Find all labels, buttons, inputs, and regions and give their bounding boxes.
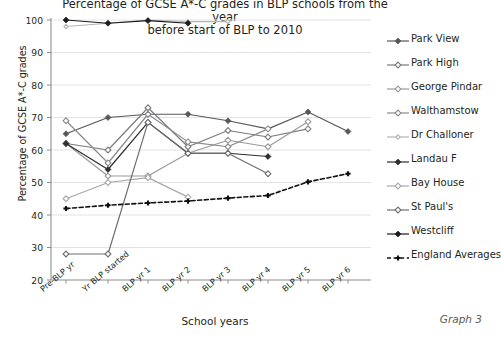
legend-item-landau-f[interactable]: Landau F xyxy=(386,146,490,170)
data-point-marker xyxy=(345,129,351,135)
data-point-marker xyxy=(225,137,231,143)
data-point-marker xyxy=(225,150,231,156)
legend-swatch-icon xyxy=(386,153,410,165)
y-axis-tick-label: 50 xyxy=(17,177,43,188)
data-point-marker xyxy=(147,202,150,205)
data-point-marker xyxy=(395,159,401,165)
data-point-marker xyxy=(63,17,69,23)
data-point-marker xyxy=(265,171,271,177)
series-walthamstow xyxy=(63,111,271,166)
data-point-marker xyxy=(265,126,271,132)
legend-item-dr-challoner[interactable]: Dr Challoner xyxy=(386,122,490,146)
legend-label: Westcliff xyxy=(410,225,454,236)
data-point-marker xyxy=(187,200,190,203)
data-point-marker xyxy=(225,128,231,134)
y-axis-tick-label: 90 xyxy=(17,47,43,58)
data-point-marker xyxy=(347,172,350,175)
legend-label: Walthamstow xyxy=(410,105,479,116)
legend-swatch-icon xyxy=(386,177,410,189)
data-point-marker xyxy=(105,180,111,186)
data-point-marker xyxy=(107,204,110,207)
legend-label: England Averages xyxy=(410,249,501,260)
data-point-marker xyxy=(227,197,230,200)
legend-swatch-icon xyxy=(386,201,410,213)
legend-item-bay-house[interactable]: Bay House xyxy=(386,171,490,195)
legend-swatch-icon xyxy=(386,56,410,68)
legend-item-westcliff[interactable]: Westcliff xyxy=(386,219,490,243)
data-point-marker xyxy=(395,38,401,44)
legend-item-park-high[interactable]: Park High xyxy=(386,50,490,74)
y-axis-tick-label: 100 xyxy=(17,15,43,26)
data-point-marker xyxy=(396,135,400,139)
data-point-marker xyxy=(307,181,310,184)
chart-legend: Park ViewPark HighGeorge PindarWalthamst… xyxy=(386,26,490,267)
legend-item-park-view[interactable]: Park View xyxy=(386,26,490,50)
y-axis-tick-label: 70 xyxy=(17,112,43,123)
y-axis-tick-label: 80 xyxy=(17,80,43,91)
data-point-marker xyxy=(395,207,401,213)
y-axis-tick-label: 60 xyxy=(17,145,43,156)
data-point-marker xyxy=(395,86,401,92)
series-line xyxy=(66,122,268,169)
legend-label: Park View xyxy=(410,33,460,44)
data-point-marker xyxy=(395,62,401,68)
legend-item-walthamstow[interactable]: Walthamstow xyxy=(386,98,490,122)
y-axis-tick-label: 40 xyxy=(17,210,43,221)
legend-label: St Paul's xyxy=(410,201,453,212)
data-point-marker xyxy=(63,251,69,257)
series-bay-house xyxy=(63,175,191,202)
data-point-marker xyxy=(305,119,311,125)
data-point-marker xyxy=(105,20,111,26)
legend-swatch-icon xyxy=(386,128,410,140)
data-point-marker xyxy=(305,109,311,115)
y-axis-tick-label: 30 xyxy=(17,242,43,253)
data-point-marker xyxy=(105,251,111,257)
data-point-marker xyxy=(265,144,271,150)
data-point-marker xyxy=(185,111,191,117)
data-point-marker xyxy=(267,194,270,197)
data-point-marker xyxy=(63,196,69,202)
legend-swatch-icon xyxy=(386,225,410,237)
data-point-marker xyxy=(305,126,311,132)
legend-label: Dr Challoner xyxy=(410,129,474,140)
data-point-marker xyxy=(265,154,271,160)
data-point-marker xyxy=(395,183,401,189)
data-point-marker xyxy=(225,118,231,124)
legend-label: Bay House xyxy=(410,177,464,188)
legend-label: Landau F xyxy=(410,153,457,164)
series-line xyxy=(66,178,188,199)
legend-item-st-paul-s[interactable]: St Paul's xyxy=(386,195,490,219)
data-point-marker xyxy=(145,18,151,24)
legend-swatch-icon xyxy=(386,249,410,261)
legend-item-george-pindar[interactable]: George Pindar xyxy=(386,74,490,98)
data-point-marker xyxy=(63,131,69,137)
legend-swatch-icon xyxy=(386,32,410,44)
data-point-marker xyxy=(395,231,401,237)
data-point-marker xyxy=(265,134,271,140)
data-point-marker xyxy=(395,110,401,116)
legend-item-england-averages[interactable]: England Averages xyxy=(386,243,490,267)
legend-swatch-icon xyxy=(386,104,410,116)
data-point-marker xyxy=(65,207,68,210)
legend-label: Park High xyxy=(410,57,459,68)
data-point-marker xyxy=(105,115,111,121)
data-point-marker xyxy=(64,24,68,28)
legend-swatch-icon xyxy=(386,80,410,92)
legend-label: George Pindar xyxy=(410,81,482,92)
data-point-marker xyxy=(397,257,400,260)
data-point-marker xyxy=(225,144,231,150)
